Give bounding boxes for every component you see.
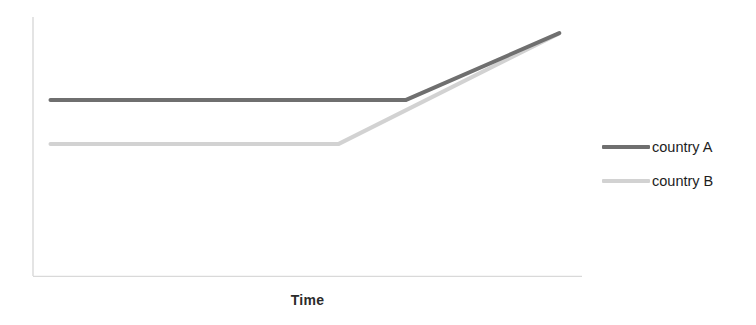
- legend-label-country-b: country B: [652, 174, 713, 189]
- series-line-country-a: [50, 33, 559, 100]
- chart-figure: Time country A country B: [0, 0, 756, 325]
- series-layer: [50, 33, 559, 144]
- legend-item-country-a[interactable]: country A: [602, 130, 756, 164]
- legend-item-country-b[interactable]: country B: [602, 164, 756, 198]
- series-line-country-b: [50, 34, 557, 144]
- legend-swatch-country-a-icon: [602, 145, 650, 149]
- legend-label-country-a: country A: [652, 140, 712, 155]
- x-axis-title: Time: [33, 292, 582, 308]
- chart-legend: country A country B: [602, 130, 756, 198]
- legend-swatch-country-b-icon: [602, 179, 650, 183]
